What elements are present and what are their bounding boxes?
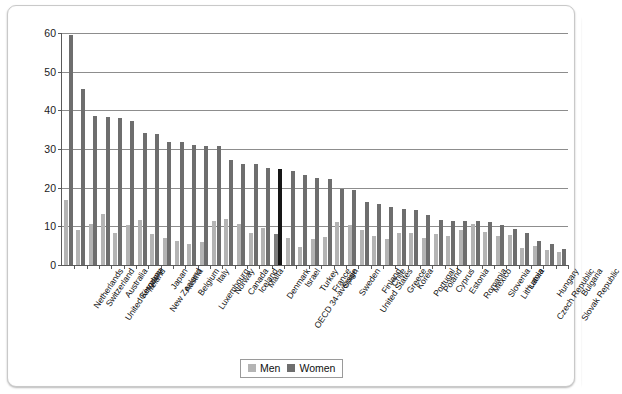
x-axis-tick [568,265,569,269]
bar-group [187,33,196,265]
bar-group [212,33,221,265]
bar-women [340,189,344,265]
bar-women [278,169,282,265]
bar-men [286,238,290,265]
bar-men [422,238,426,265]
bar-group [348,33,357,265]
bar-group [298,33,307,265]
bar-group [126,33,135,265]
bar-men [434,234,438,265]
bar-men [335,222,339,265]
bar-men [533,246,537,265]
bar-men [385,239,389,265]
bar-women [426,215,430,265]
bar-women [328,179,332,265]
bar-group [101,33,110,265]
bar-women [130,121,134,265]
bars-layer [62,33,568,265]
bar-women [451,221,455,265]
bar-women [463,221,467,265]
bar-men [187,244,191,265]
bar-men [360,230,364,265]
bar-men [298,247,302,265]
bar-group [409,33,418,265]
bar-women [155,134,159,265]
y-axis-tick-label: 20 [44,182,56,194]
bar-group [496,33,505,265]
bar-women [562,249,566,265]
bar-women [537,241,541,265]
y-axis-tick-label: 30 [44,143,56,155]
bar-women [106,117,110,265]
y-axis-tick-label: 50 [44,66,56,78]
bar-group [483,33,492,265]
bar-women [476,221,480,265]
x-axis-label: Sweden [357,267,382,298]
bar-men [274,234,278,265]
bar-group [311,33,320,265]
bar-women [229,160,233,265]
bar-group [64,33,73,265]
bar-group [163,33,172,265]
bar-women [167,142,171,265]
bar-group [360,33,369,265]
bar-group [175,33,184,265]
bar-women [291,171,295,265]
legend-label: Women [299,362,335,374]
bar-group [237,33,246,265]
bar-women [192,145,196,265]
y-axis-tick [58,265,62,266]
bar-men [397,233,401,265]
bar-women [402,209,406,265]
bar-group [533,33,542,265]
bar-men [237,224,241,265]
bar-men [212,221,216,265]
bar-women [93,116,97,265]
bar-group [286,33,295,265]
bar-women [439,220,443,265]
bar-women [389,207,393,265]
bar-men [200,242,204,265]
bar-women [217,146,221,265]
bar-men [150,234,154,265]
bar-men [459,230,463,265]
bar-women [69,35,73,265]
bar-men [76,230,80,265]
bar-men [175,241,179,265]
bar-men [348,225,352,265]
bar-group [459,33,468,265]
bar-group [138,33,147,265]
bar-women [525,233,529,265]
bar-women [81,89,85,265]
chart-legend: MenWomen [240,359,343,378]
bar-group [434,33,443,265]
bar-men [323,237,327,265]
bar-group [224,33,233,265]
bar-women [377,204,381,265]
bar-women [118,118,122,265]
bar-men [372,236,376,265]
bar-women [180,142,184,265]
bar-group [397,33,406,265]
legend-swatch-icon [248,364,256,372]
bar-men [520,248,524,265]
bar-women [414,210,418,265]
bar-women [488,222,492,265]
bar-women [352,190,356,265]
bar-men [471,224,475,265]
scanned-page-frame: 0102030405060 NetherlandsSwitzerlandUnit… [7,5,575,387]
bar-women [513,229,517,265]
bar-women [266,168,270,265]
y-axis-tick-label: 0 [50,259,56,271]
bar-women [254,164,258,265]
bar-men [508,235,512,265]
bar-men [64,200,68,265]
bar-group [76,33,85,265]
bar-group [385,33,394,265]
bar-group [274,33,283,265]
bar-women [143,133,147,265]
bar-group [335,33,344,265]
bar-group [249,33,258,265]
bar-men [163,238,167,265]
